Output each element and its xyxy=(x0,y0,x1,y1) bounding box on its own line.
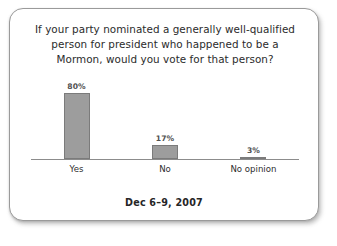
bar-value-label: 80% xyxy=(67,82,85,91)
category-axis: YesNoNo opinion xyxy=(31,164,299,178)
card-inner: If your party nominated a generally well… xyxy=(10,9,318,220)
bar-group: 17% xyxy=(152,81,178,159)
bar xyxy=(152,145,178,159)
bar-value-label: 17% xyxy=(156,134,174,143)
category-label: Yes xyxy=(70,164,84,174)
bar-value-label: 3% xyxy=(247,146,260,155)
bar xyxy=(240,157,266,159)
chart-footer-date: Dec 6–9, 2007 xyxy=(10,197,318,208)
bar-column: 3% xyxy=(240,81,266,159)
bar-column: 17% xyxy=(152,81,178,159)
category-label: No xyxy=(159,164,171,174)
bar-group: 3% xyxy=(240,81,266,159)
bar-group: 80% xyxy=(64,81,90,159)
chart-baseline-axis xyxy=(31,159,299,160)
bar-column: 80% xyxy=(64,81,90,159)
bar xyxy=(64,93,90,159)
chart-plot-area: 80%17%3% xyxy=(31,82,299,160)
poll-result-card: If your party nominated a generally well… xyxy=(9,8,319,221)
page-title: If your party nominated a generally well… xyxy=(26,22,304,68)
category-label: No opinion xyxy=(230,164,276,174)
